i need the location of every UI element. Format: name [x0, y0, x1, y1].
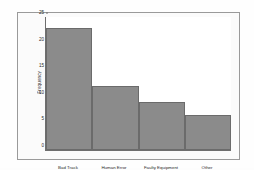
bar-faulty-equipment[interactable]: [139, 102, 185, 150]
bar-column: [46, 17, 92, 150]
y-tick-label: 10: [39, 89, 46, 94]
y-tick-mark: [46, 12, 48, 13]
bar-series: [46, 17, 231, 150]
chart-frame: Frequency 0 5 10 15 20 25: [17, 12, 240, 160]
y-tick: 20: [39, 36, 46, 41]
bar-column: [139, 17, 185, 150]
y-tick-label: 20: [39, 36, 46, 41]
bar-column: [185, 17, 231, 150]
y-tick: 15: [39, 63, 46, 68]
figure: Frequency 0 5 10 15 20 25: [0, 0, 254, 168]
y-tick: 25: [39, 10, 46, 15]
x-tick-label-other: Other: [202, 165, 213, 168]
x-tick-label-bad-track: Bad Track: [58, 165, 78, 168]
bar-other[interactable]: [185, 115, 231, 150]
y-tick-label: 25: [39, 10, 46, 15]
bar-column: [92, 17, 138, 150]
plot-area: 0 5 10 15 20 25: [45, 17, 231, 151]
x-tick-label-faulty-equipment: Faulty Equipment: [144, 165, 178, 168]
bar-human-error[interactable]: [92, 86, 138, 150]
y-tick: 10: [39, 89, 46, 94]
bar-bad-track[interactable]: [46, 28, 92, 150]
x-tick-label-human-error: Human Error: [101, 165, 126, 168]
y-tick-label: 15: [39, 63, 46, 68]
